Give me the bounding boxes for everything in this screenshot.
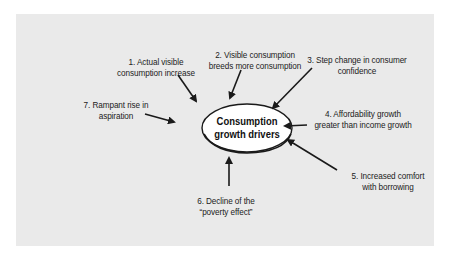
driver-5-line2: with borrowing [341, 181, 436, 192]
driver-6-line2: “poverty effect” [183, 206, 269, 217]
driver-2-line1: 2. Visible consumption [199, 49, 311, 60]
driver-6: 6. Decline of the “poverty effect” [183, 195, 269, 217]
driver-2: 2. Visible consumption breeds more consu… [199, 49, 311, 71]
driver-3-line1: 3. Step change in consumer [301, 54, 413, 65]
arrow-5 [288, 140, 337, 170]
driver-1-line2: consumption increase [104, 67, 207, 78]
driver-1-line1: 1. Actual visible [104, 56, 207, 67]
driver-5-line1: 5. Increased comfort [341, 170, 436, 181]
driver-3: 3. Step change in consumer confidence [301, 54, 413, 76]
driver-4-line2: greater than income growth [307, 119, 419, 130]
driver-4-line1: 4. Affordability growth [307, 108, 419, 119]
arrow-4 [285, 125, 307, 126]
driver-3-line2: confidence [301, 65, 413, 76]
arrow-1 [178, 75, 196, 101]
center-label-line2: growth drivers [207, 128, 288, 141]
driver-7: 7. Rampant rise in aspiration [73, 99, 159, 121]
driver-6-line1: 6. Decline of the [183, 195, 269, 206]
center-label-line1: Consumption [207, 115, 288, 128]
driver-2-line2: breeds more consumption [199, 60, 311, 71]
arrow-2 [230, 70, 241, 98]
driver-4: 4. Affordability growth greater than inc… [307, 108, 419, 130]
center-label: Consumption growth drivers [207, 115, 288, 141]
driver-7-line1: 7. Rampant rise in [73, 99, 159, 110]
driver-1: 1. Actual visible consumption increase [104, 56, 207, 78]
driver-7-line2: aspiration [73, 110, 159, 121]
driver-5: 5. Increased comfort with borrowing [341, 170, 436, 192]
